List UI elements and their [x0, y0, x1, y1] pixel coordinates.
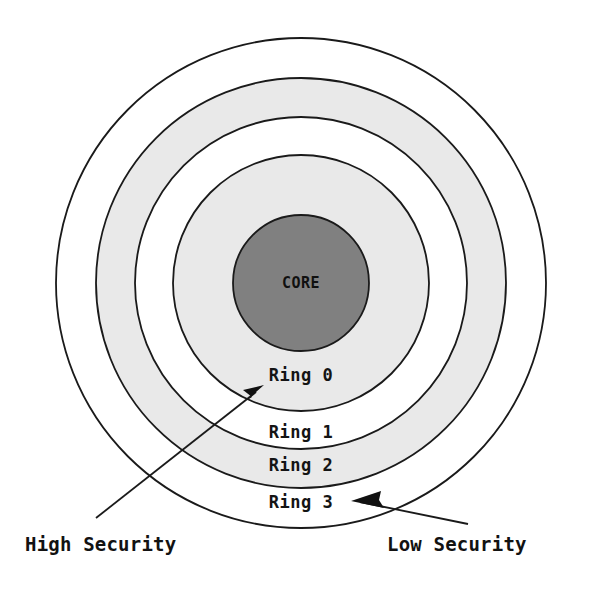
ring-2-label: Ring 2: [269, 455, 333, 475]
high-security-label: High Security: [25, 533, 176, 555]
low-security-label: Low Security: [387, 533, 527, 555]
ring-1-label: Ring 1: [269, 422, 333, 442]
ring-0-label: Ring 0: [269, 365, 333, 385]
diagram-canvas: CORE Ring 0 Ring 1 Ring 2 Ring 3 High Se…: [0, 0, 603, 590]
core-label: CORE: [282, 274, 320, 292]
concentric-rings-diagram: CORE Ring 0 Ring 1 Ring 2 Ring 3 High Se…: [0, 0, 603, 590]
ring-3-label: Ring 3: [269, 492, 333, 512]
